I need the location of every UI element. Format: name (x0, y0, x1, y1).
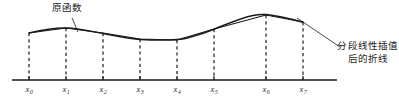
tick-label-subscript: 3 (141, 89, 144, 95)
node-droplines (29, 15, 303, 80)
tick-label-x6: x6 (263, 84, 270, 94)
tick-label-subscript: 4 (178, 89, 181, 95)
tick-label-subscript: 0 (30, 89, 33, 95)
tick-label-x3: x3 (137, 84, 144, 94)
tick-label-x5: x5 (211, 84, 218, 94)
tick-label-x0: x0 (26, 84, 33, 94)
tick-label-subscript: 1 (67, 89, 70, 95)
tick-label-subscript: 7 (304, 89, 307, 95)
interpolated-polyline-label: 分段线性插值后的折线 (337, 40, 399, 65)
tick-label-x2: x2 (100, 84, 107, 94)
tick-label-x1: x1 (63, 84, 70, 94)
interpolation-figure: 原函数 分段线性插值后的折线 x0x1x2x3x4x5x6x7 (0, 0, 399, 108)
original-function-label: 原函数 (52, 2, 83, 14)
tick-label-subscript: 5 (215, 89, 218, 95)
tick-label-subscript: 6 (267, 89, 270, 95)
tick-label-x7: x7 (300, 84, 307, 94)
tick-label-x4: x4 (174, 84, 181, 94)
tick-label-subscript: 2 (104, 89, 107, 95)
leader-original (72, 18, 78, 32)
original-function-curve (29, 14, 303, 40)
